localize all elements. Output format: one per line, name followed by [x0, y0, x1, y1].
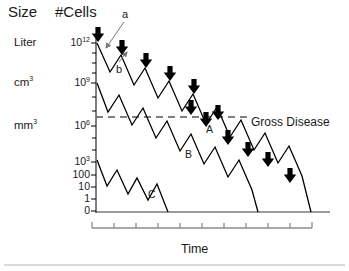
treatment-arrow: [92, 27, 104, 42]
x-axis-ticks: [92, 222, 312, 228]
treatment-arrow: [188, 79, 200, 94]
treatment-arrow: [262, 152, 274, 167]
curve-b-path: [97, 83, 258, 212]
curve-a-path: [97, 43, 311, 212]
treatment-arrow: [284, 168, 296, 183]
curve-c-path: [97, 160, 168, 212]
plot-vector-layer: [0, 0, 349, 271]
y-axis-ticks: [91, 43, 96, 211]
treatment-arrow: [185, 100, 197, 115]
treatment-arrow: [140, 53, 152, 68]
treatment-arrow: [242, 142, 254, 157]
treatment-arrow: [164, 66, 176, 81]
tumor-burden-figure: Size #Cells Liter cm3 mm3 1012 109 106 1…: [0, 0, 349, 271]
treatment-cycle-arrows: [92, 27, 296, 183]
